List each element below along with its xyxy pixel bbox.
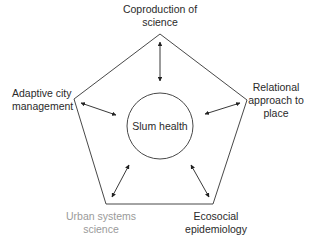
arrow-bottom-right [191,165,209,197]
node-left-line-2: management [12,100,73,113]
node-bottom-left-line-1: Urban systems [61,210,141,223]
arrow-right [205,103,240,114]
node-top-label: Coproduction of science [110,3,210,29]
center-label: Slum health [120,120,200,133]
node-bottom-right-label: Ecosocial epidemiology [176,210,256,236]
node-bottom-right-line-1: Ecosocial [176,210,256,223]
node-right-line-1: Relational [245,81,307,94]
node-top-line-1: Coproduction of [110,3,210,16]
node-right-label: Relational approach to place [245,81,307,120]
node-bottom-left-label: Urban systems science [61,210,141,236]
center-label-text: Slum health [132,120,187,132]
node-bottom-right-line-2: epidemiology [176,223,256,236]
node-left-line-1: Adaptive city [12,87,73,100]
node-right-line-2: approach to [245,94,307,107]
node-right-line-3: place [245,107,307,120]
node-left-label: Adaptive city management [12,87,73,113]
arrow-bottom-left [112,165,129,197]
node-bottom-left-line-2: science [61,223,141,236]
arrow-left [81,103,116,115]
pentagon-outline [74,34,247,204]
node-top-line-2: science [110,16,210,29]
